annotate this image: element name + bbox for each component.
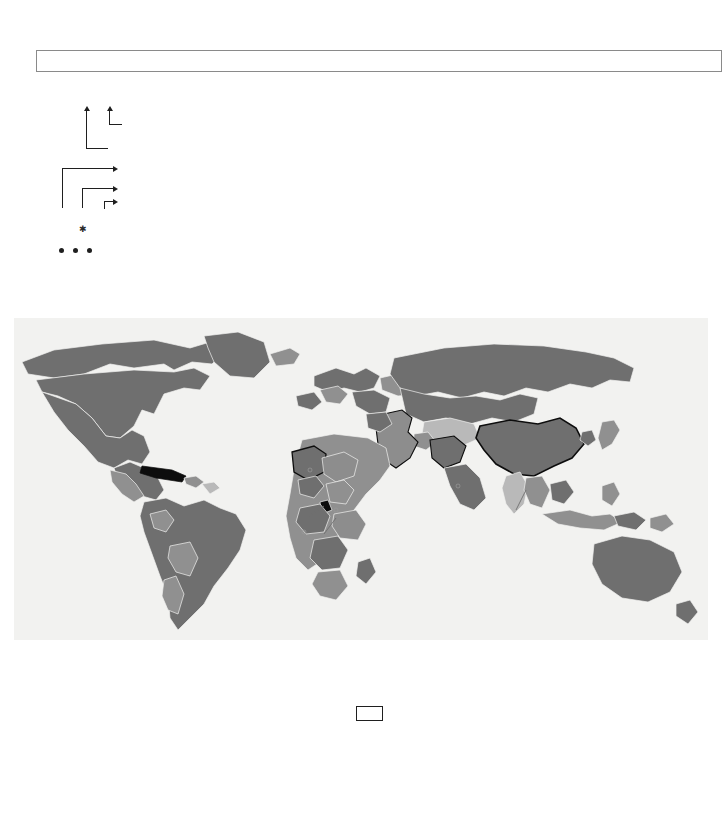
timeline-status-bar — [0, 34, 722, 42]
bracket-line-1 — [86, 111, 87, 149]
report-dot-1-icon — [59, 248, 64, 253]
world-map-svg — [14, 318, 708, 640]
map-legend — [0, 648, 722, 788]
timeline-chart — [0, 0, 722, 110]
permit-gradient-strip — [44, 210, 122, 217]
asterisk-icon-legend: ✱ — [79, 225, 87, 234]
permit-line-1b — [62, 168, 114, 169]
report-dot-3-icon — [87, 248, 92, 253]
rate-of-incarceration-legend — [450, 140, 722, 280]
arrow-right-icon-1 — [113, 166, 118, 172]
other-countries-box — [616, 330, 702, 339]
bottom-case-columns — [0, 798, 722, 837]
timeline-legend: ✱ — [0, 100, 430, 280]
permit-line-2b — [82, 188, 114, 189]
bracket-line-3 — [109, 111, 110, 125]
article-20-swatch — [356, 706, 383, 721]
arrow-right-icon-2 — [113, 186, 118, 192]
permit-line-1 — [62, 168, 63, 208]
arrow-right-icon-3 — [113, 199, 118, 205]
world-map — [14, 318, 708, 640]
timeline-month-grid — [36, 50, 722, 72]
bracket-line-4 — [109, 124, 122, 125]
report-dot-2-icon — [73, 248, 78, 253]
bracket-line-2 — [86, 148, 108, 149]
permit-line-2 — [82, 188, 83, 208]
